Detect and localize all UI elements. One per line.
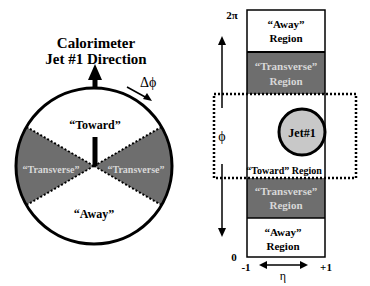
right-diagram: Jet#1 “Away” Region “Transverse” Region …	[214, 9, 356, 283]
delta-phi-label: Δϕ	[140, 75, 156, 90]
left-diagram: Calorimeter Jet #1 Direction Δϕ “Toward”…	[16, 35, 172, 244]
transverse-top-label-line1: “Transverse”	[255, 60, 318, 72]
eta-axis-left-arrowhead-icon	[259, 261, 267, 269]
toward-label: “Toward”	[69, 118, 121, 132]
transverse-bottom-label-line1: “Transverse”	[255, 185, 318, 197]
diagram-canvas: Calorimeter Jet #1 Direction Δϕ “Toward”…	[0, 0, 370, 286]
jet1-label: Jet#1	[288, 126, 315, 140]
eta-axis-label: η	[280, 269, 286, 283]
phi-top-tick: 2π	[226, 9, 238, 21]
phi-axis-down-arrowhead-icon	[218, 228, 226, 237]
left-title-line1: Calorimeter	[57, 35, 136, 51]
eta-axis-right-arrowhead-icon	[300, 261, 308, 269]
eta-left-tick: -1	[241, 261, 250, 273]
phi-bottom-tick: 0	[231, 251, 237, 263]
toward-region-label: “Toward” Region	[246, 165, 322, 176]
phi-axis-label: ϕ	[218, 129, 225, 144]
transverse-top-label-line2: Region	[270, 75, 303, 87]
away-bottom-label-line1: “Away”	[264, 226, 301, 238]
delta-phi-arrowhead-icon	[143, 93, 152, 101]
transverse-region-top	[247, 52, 325, 94]
transverse-left-label: “Transverse”	[22, 164, 79, 175]
transverse-right-label: “Transverse”	[107, 164, 164, 175]
transverse-bottom-label-line2: Region	[270, 199, 303, 211]
transverse-region-bottom	[247, 178, 325, 218]
away-top-label-line2: Region	[270, 32, 303, 44]
phi-axis-up-arrowhead-icon	[218, 36, 226, 45]
away-label: “Away”	[74, 207, 114, 221]
left-title-line2: Jet #1 Direction	[45, 51, 147, 67]
away-bottom-label-line2: Region	[267, 240, 300, 252]
eta-right-tick: +1	[320, 261, 332, 273]
away-top-label-line1: “Away”	[267, 18, 304, 30]
